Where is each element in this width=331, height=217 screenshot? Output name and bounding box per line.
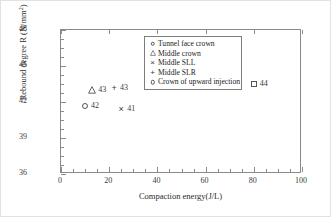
- x-tick-label-0: 0: [48, 177, 72, 185]
- x-tick-major: [157, 167, 158, 172]
- marker-square-open-icon: [251, 81, 257, 87]
- y-tick-label-39: 39: [7, 133, 27, 141]
- y-tick-major: [61, 102, 66, 103]
- y-tick-minor: [61, 48, 64, 49]
- x-tick-major: [206, 167, 207, 172]
- y-tick-label-45: 45: [7, 61, 27, 69]
- y-tick-major: [61, 174, 66, 175]
- x-axis-title: Compaction energy(J/L): [60, 191, 301, 201]
- legend-label: Crown of upward injection: [158, 77, 240, 87]
- x-tick-minor: [278, 169, 279, 172]
- marker-plus-icon: +: [150, 69, 155, 77]
- x-tick-major: [109, 167, 110, 172]
- x-tick-label-60: 60: [193, 177, 217, 185]
- y-tick-minor: [61, 147, 64, 148]
- marker-triangle-open-icon: [88, 86, 96, 94]
- legend-marker: ×: [148, 58, 157, 67]
- legend-marker: [148, 39, 157, 48]
- legend-item[interactable]: +Middle SLR: [148, 68, 238, 78]
- x-tick-label-20: 20: [96, 177, 120, 185]
- x-tick-top: [254, 30, 255, 34]
- x-tick-label-40: 40: [144, 177, 168, 185]
- y-tick-minor: [61, 84, 64, 85]
- marker-x-cross-icon: ×: [150, 59, 155, 67]
- x-tick-top: [157, 30, 158, 34]
- x-tick-label-100: 100: [289, 177, 313, 185]
- y-tick-minor: [61, 129, 64, 130]
- x-tick-label-80: 80: [241, 177, 265, 185]
- legend-box: Tunnel face crownMiddle crown×Middle SLL…: [144, 36, 242, 90]
- plot-area: 4243+43×4144 Tunnel face crownMiddle cro…: [60, 29, 301, 173]
- x-tick-minor: [121, 169, 122, 172]
- marker-circle-open-icon: [150, 42, 155, 47]
- x-tick-minor: [194, 169, 195, 172]
- legend-item[interactable]: Tunnel face crown: [148, 39, 238, 49]
- x-tick-minor: [242, 169, 243, 172]
- y-tick-minor: [61, 165, 64, 166]
- legend-item[interactable]: ×Middle SLL: [148, 58, 238, 68]
- y-tick-major: [61, 66, 66, 67]
- x-tick-minor: [73, 169, 74, 172]
- legend-item[interactable]: Crown of upward injection: [148, 77, 238, 87]
- y-tick-minor: [61, 111, 64, 112]
- legend-label: Middle SLL: [158, 58, 195, 68]
- x-tick-top: [206, 30, 207, 34]
- x-tick-minor: [97, 169, 98, 172]
- y-tick-minor: [61, 39, 64, 40]
- data-point-label: 44: [260, 79, 268, 88]
- y-tick-minor: [61, 75, 64, 76]
- y-tick-label-48: 48: [7, 25, 27, 33]
- marker-triangle-open-icon: [150, 50, 156, 56]
- legend-marker: [148, 49, 157, 58]
- y-tick-label-42: 42: [7, 97, 27, 105]
- marker-circle-open-icon: [82, 103, 88, 109]
- data-point-label: 43: [120, 83, 128, 92]
- x-tick-major: [302, 167, 303, 172]
- chart-page: Rebound degree R (N/mm2) 36 39 42 45 48 …: [0, 0, 331, 217]
- x-tick-top: [302, 30, 303, 34]
- x-tick-minor: [290, 169, 291, 172]
- x-tick-major: [254, 167, 255, 172]
- x-tick-minor: [145, 169, 146, 172]
- legend-label: Tunnel face crown: [158, 39, 215, 49]
- legend-label: Middle crown: [158, 49, 201, 59]
- marker-plus-icon: +: [110, 83, 118, 93]
- legend-label: Middle SLR: [158, 68, 196, 78]
- x-tick-top: [61, 30, 62, 34]
- marker-x-cross-icon: ×: [117, 104, 125, 114]
- x-tick-minor: [85, 169, 86, 172]
- y-tick-minor: [61, 156, 64, 157]
- y-axis-title-superscript: 2: [18, 7, 24, 10]
- y-tick-minor: [61, 120, 64, 121]
- y-tick-minor: [61, 93, 64, 94]
- x-tick-top: [109, 30, 110, 34]
- marker-circle-open-icon: [150, 80, 155, 85]
- x-tick-minor: [133, 169, 134, 172]
- legend-marker: [148, 78, 157, 87]
- y-tick-major: [61, 138, 66, 139]
- y-tick-label-36: 36: [7, 169, 27, 177]
- legend-item[interactable]: Middle crown: [148, 49, 238, 59]
- legend-marker: +: [148, 68, 157, 77]
- x-tick-minor: [266, 169, 267, 172]
- x-tick-minor: [218, 169, 219, 172]
- x-tick-minor: [182, 169, 183, 172]
- x-tick-major: [61, 167, 62, 172]
- data-point-label: 42: [91, 101, 99, 110]
- data-point-label: 43: [98, 85, 106, 94]
- y-tick-minor: [61, 57, 64, 58]
- x-tick-minor: [230, 169, 231, 172]
- data-point-label: 41: [127, 104, 135, 113]
- y-axis-title-tail: ): [18, 5, 28, 8]
- x-tick-minor: [169, 169, 170, 172]
